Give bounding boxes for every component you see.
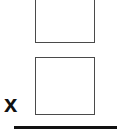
multiply-operator: x <box>4 92 17 116</box>
multiplicand-box[interactable] <box>35 0 95 43</box>
result-line <box>14 126 117 129</box>
multiplier-box[interactable] <box>35 57 95 115</box>
